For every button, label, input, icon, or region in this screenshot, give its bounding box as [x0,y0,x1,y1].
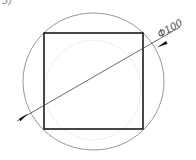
arrowhead-left-icon [19,114,28,122]
inscribed-square [44,33,143,129]
diagram-canvas: Φ100 [0,0,196,160]
ghost-circle [45,40,141,140]
arrowhead-right-icon [157,41,168,48]
diameter-dimension-line [17,27,180,121]
dimension-label: Φ100 [156,17,185,40]
